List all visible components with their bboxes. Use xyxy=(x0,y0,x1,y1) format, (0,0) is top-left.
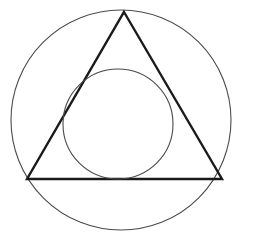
outer-circle-shape xyxy=(11,10,231,230)
geometry-figure-svg xyxy=(0,0,254,241)
geometry-figure-canvas xyxy=(0,0,254,241)
inner-circle-shape xyxy=(63,69,173,179)
